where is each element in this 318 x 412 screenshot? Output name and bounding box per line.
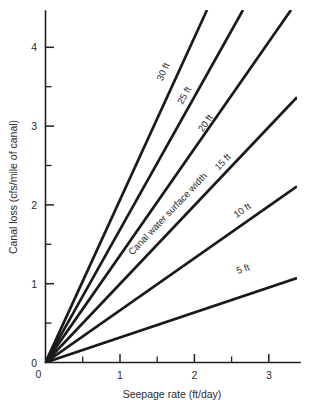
y-tick-label-4: 4 — [31, 41, 37, 53]
seepage-canal-loss-line-chart: 0 1 2 3 0 1 2 3 4 Seepage rate (ft/day) … — [0, 0, 318, 412]
series-group — [46, 10, 298, 363]
y-tick-label-3: 3 — [31, 120, 37, 132]
series-label-30ft: 30 ft — [154, 61, 172, 83]
series-line-5ft — [46, 278, 298, 362]
chart-figure: 0 1 2 3 0 1 2 3 4 Seepage rate (ft/day) … — [0, 0, 318, 412]
y-axis-title: Canal loss (cfs/mile of canal) — [7, 120, 19, 254]
y-tick-marks — [46, 47, 55, 323]
x-tick-label-2: 2 — [191, 369, 197, 381]
series-label-5ft: 5 ft — [235, 261, 251, 276]
series-line-30ft — [46, 10, 208, 363]
chart-annotation-canal-water-surface-width: Canal water surface width — [126, 170, 209, 257]
series-label-10ft: 10 ft — [231, 200, 253, 220]
y-tick-label-2: 2 — [31, 199, 37, 211]
x-tick-label-1: 1 — [117, 369, 123, 381]
y-tick-label-0: 0 — [31, 357, 37, 369]
x-tick-marks — [83, 354, 269, 363]
x-axis-title: Seepage rate (ft/day) — [123, 388, 222, 400]
series-line-20ft — [46, 10, 292, 363]
x-tick-label-3: 3 — [266, 369, 272, 381]
x-tick-label-0: 0 — [36, 368, 42, 380]
y-tick-label-1: 1 — [31, 278, 37, 290]
